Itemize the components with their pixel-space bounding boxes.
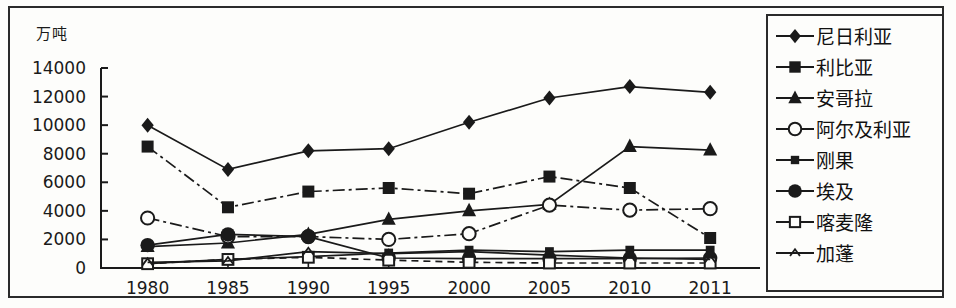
data-point-marker	[789, 122, 802, 135]
data-point-marker	[543, 91, 555, 106]
legend-marker-icon	[774, 212, 816, 232]
legend-marker-icon	[774, 150, 816, 170]
legend-label: 喀麦隆	[816, 208, 873, 235]
legend-item-7[interactable]: 喀麦隆	[774, 206, 942, 237]
legend-label: 尼日利亚	[816, 22, 892, 49]
chart-legend: 尼日利亚利比亚安哥拉阿尔及利亚刚果埃及喀麦隆加蓬	[766, 14, 944, 292]
data-point-marker	[140, 238, 154, 252]
data-point-marker	[791, 155, 799, 163]
data-point-marker	[383, 141, 395, 156]
data-point-marker	[789, 28, 801, 42]
legend-marker-icon	[774, 57, 816, 77]
data-point-marker	[543, 199, 556, 212]
legend-marker-icon	[774, 181, 816, 201]
data-point-marker	[789, 61, 800, 72]
legend-label: 阿尔及利亚	[816, 115, 911, 142]
data-point-marker	[464, 257, 475, 268]
data-point-marker	[623, 204, 636, 217]
data-point-marker	[463, 188, 475, 200]
data-point-marker	[790, 216, 800, 226]
legend-marker-icon	[774, 26, 816, 46]
legend-marker-icon	[774, 243, 816, 263]
data-point-marker	[624, 182, 636, 194]
legend-label: 利比亚	[816, 53, 873, 80]
data-point-marker	[141, 118, 153, 133]
plot-area: 万吨 02000400060008000100001200014000 1980…	[8, 6, 764, 298]
chart-screenshot: 万吨 02000400060008000100001200014000 1980…	[0, 0, 956, 308]
legend-item-5[interactable]: 刚果	[774, 144, 942, 175]
legend-label: 刚果	[816, 146, 854, 173]
data-point-marker	[382, 233, 395, 246]
data-point-marker	[704, 85, 716, 100]
data-point-marker	[221, 227, 235, 241]
data-point-marker	[544, 258, 555, 269]
data-point-marker	[788, 184, 802, 198]
data-point-marker	[704, 232, 716, 244]
data-point-marker	[302, 143, 314, 158]
series-line	[148, 87, 711, 170]
data-point-marker	[383, 182, 395, 194]
legend-item-4[interactable]: 阿尔及利亚	[774, 113, 942, 144]
legend-item-3[interactable]: 安哥拉	[774, 82, 942, 113]
legend-label: 安哥拉	[816, 84, 873, 111]
data-point-marker	[141, 211, 154, 224]
data-point-marker	[222, 162, 234, 177]
line-chart-svg	[8, 6, 764, 298]
data-point-marker	[704, 202, 717, 215]
data-point-marker	[703, 142, 717, 155]
data-point-marker	[302, 186, 314, 198]
data-point-marker	[543, 171, 555, 183]
legend-item-1[interactable]: 尼日利亚	[774, 20, 942, 51]
data-point-marker	[624, 79, 636, 94]
legend-item-2[interactable]: 利比亚	[774, 51, 942, 82]
legend-marker-icon	[774, 119, 816, 139]
data-point-marker	[788, 90, 801, 103]
data-point-marker	[222, 201, 234, 213]
legend-label: 埃及	[816, 177, 854, 204]
legend-item-6[interactable]: 埃及	[774, 175, 942, 206]
data-point-marker	[142, 141, 154, 153]
data-point-marker	[623, 139, 637, 152]
data-point-marker	[462, 203, 476, 216]
legend-item-8[interactable]: 加蓬	[774, 237, 942, 268]
data-point-marker	[301, 229, 315, 243]
data-point-marker	[462, 227, 475, 240]
data-point-marker	[463, 115, 475, 130]
legend-marker-icon	[774, 88, 816, 108]
series-1	[141, 79, 716, 177]
legend-label: 加蓬	[816, 239, 854, 266]
